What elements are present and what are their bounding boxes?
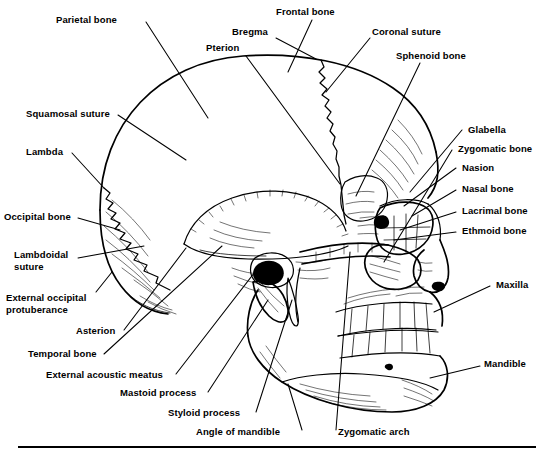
label-eop-line2: protuberance (6, 304, 68, 315)
leader-external-acoustic-meatus (176, 268, 258, 374)
label-parietal-bone: Parietal bone (56, 14, 117, 26)
label-lambdoidal-suture-line2: suture (14, 261, 44, 272)
label-occipital-bone: Occipital bone (4, 211, 71, 223)
label-lacrimal-bone: Lacrimal bone (462, 205, 528, 217)
label-temporal-bone: Temporal bone (28, 348, 97, 360)
label-lambda: Lambda (26, 146, 63, 158)
sphenoid-greater-wing (341, 176, 388, 221)
leader-squamosal-suture (118, 115, 186, 160)
label-pterion: Pterion (206, 42, 239, 54)
label-nasal-bone: Nasal bone (462, 183, 514, 195)
leader-styloid-process (256, 300, 292, 412)
label-angle-of-mandible: Angle of mandible (196, 426, 280, 438)
label-eop-line1: External occipital (6, 292, 86, 303)
bottom-rule (18, 446, 536, 448)
skull-anatomy-figure: .ol{fill:none;stroke:#000;stroke-width:1… (0, 0, 549, 459)
leader-mastoid-process (208, 300, 268, 392)
label-zygomatic-arch: Zygomatic arch (338, 426, 410, 438)
leader-asterion (124, 248, 186, 330)
label-lambdoidal-suture: Lambdoidal suture (14, 249, 68, 272)
leader-sphenoid-bone (356, 63, 420, 196)
leader-parietal-bone (146, 22, 208, 118)
frontal-bone-face (372, 120, 438, 206)
label-external-acoustic-meatus: External acoustic meatus (46, 369, 163, 381)
leader-angle-of-mandible (288, 384, 302, 430)
mastoid-and-ear-region (232, 253, 330, 326)
label-maxilla: Maxilla (496, 279, 528, 291)
label-styloid-process: Styloid process (168, 407, 240, 419)
label-coronal-suture: Coronal suture (372, 26, 441, 38)
maxilla-and-upper-teeth (336, 287, 443, 336)
leader-external-occipital-protuberance (96, 272, 112, 292)
leader-nasion (404, 168, 456, 206)
label-sphenoid-bone: Sphenoid bone (396, 50, 466, 62)
label-external-occipital-protuberance: External occipital protuberance (6, 292, 86, 315)
leader-coronal-suture (326, 38, 370, 92)
label-glabella: Glabella (468, 124, 506, 136)
leader-pterion (246, 56, 340, 184)
label-zygomatic-bone: Zygomatic bone (458, 143, 532, 155)
label-bregma: Bregma (232, 26, 268, 38)
squamosal-suture-line (184, 190, 348, 244)
leader-mandible (430, 366, 480, 378)
label-frontal-bone: Frontal bone (276, 6, 335, 18)
label-ethmoid-bone: Ethmoid bone (462, 225, 527, 237)
label-mandible: Mandible (484, 358, 526, 370)
label-mastoid-process: Mastoid process (120, 387, 196, 399)
label-nasion: Nasion (462, 162, 494, 174)
label-squamosal-suture: Squamosal suture (26, 108, 110, 120)
label-asterion: Asterion (76, 325, 115, 337)
label-lambdoidal-suture-line1: Lambdoidal (14, 249, 68, 260)
leader-lambda (72, 153, 104, 188)
